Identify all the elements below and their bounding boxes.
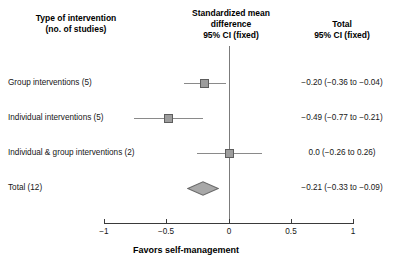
x-axis-tick-mark — [353, 219, 354, 223]
x-axis-tick-label: −0.5 — [146, 227, 186, 237]
column-header-total-line1: Total — [290, 19, 394, 30]
null-effect-reference-line — [229, 46, 230, 223]
effect-value-total: −0.21 (−0.33 to −0.09) — [288, 183, 396, 193]
column-header-intervention-line2: (no. of studies) — [8, 24, 144, 35]
x-axis-tick-mark — [166, 219, 167, 223]
summary-diamond-total — [187, 181, 219, 196]
x-axis-tick-label: 0.5 — [271, 227, 311, 237]
row-label-individual-interventions: Individual interventions (5) — [8, 113, 104, 123]
column-header-intervention: Type of intervention (no. of studies) — [8, 13, 144, 35]
forest-plot: Type of intervention (no. of studies) St… — [0, 0, 400, 268]
x-axis-tick-mark — [104, 219, 105, 223]
effect-value-individual-interventions: −0.49 (−0.77 to −0.21) — [288, 113, 396, 123]
row-label-individual-and-group-interventions: Individual & group interventions (2) — [8, 148, 135, 158]
x-axis-tick-label: −1 — [84, 227, 124, 237]
x-axis-tick-mark — [291, 219, 292, 223]
column-header-total-line2: 95% CI (fixed) — [290, 30, 394, 41]
column-header-intervention-line1: Type of intervention — [8, 13, 144, 24]
x-axis-tick-label: 0 — [209, 227, 249, 237]
column-header-smd: Standardized mean difference 95% CI (fix… — [175, 8, 287, 41]
point-estimate-marker-group-interventions — [200, 79, 209, 88]
x-axis-tick-label: 1 — [333, 227, 373, 237]
column-header-total: Total 95% CI (fixed) — [290, 19, 394, 41]
effect-value-individual-and-group-interventions: 0.0 (−0.26 to 0.26) — [288, 148, 396, 158]
x-axis-tick-mark — [229, 219, 230, 223]
point-estimate-marker-individual-interventions — [164, 114, 173, 123]
column-header-smd-line1: Standardized mean — [175, 8, 287, 19]
column-header-smd-line2: difference — [175, 19, 287, 30]
column-header-smd-line3: 95% CI (fixed) — [175, 30, 287, 41]
x-axis-title: Favors self-management — [66, 245, 306, 255]
effect-value-group-interventions: −0.20 (−0.36 to −0.04) — [288, 78, 396, 88]
row-label-group-interventions: Group interventions (5) — [8, 78, 92, 88]
point-estimate-marker-individual-and-group-interventions — [225, 149, 234, 158]
x-axis-line — [104, 223, 354, 224]
row-label-total: Total (12) — [8, 183, 42, 193]
